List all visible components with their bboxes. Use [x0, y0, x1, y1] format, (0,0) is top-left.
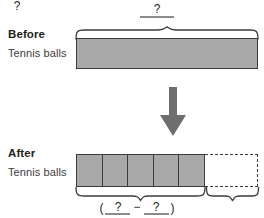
after-filled-expression: ( ? − ? ): [82, 202, 192, 218]
before-total-unknown: ?: [140, 4, 174, 18]
expression-close-paren: ): [171, 202, 175, 215]
before-total-blank-rule: [140, 16, 174, 18]
before-sublabel: Tennis balls: [8, 47, 67, 59]
down-arrow-icon: [159, 87, 187, 137]
after-filled-brace: [74, 187, 207, 202]
expression-second-blank: ?: [144, 202, 169, 215]
after-bar-segment: [128, 155, 154, 186]
before-label: Before: [8, 28, 45, 40]
after-empty-unknown: ?: [0, 0, 34, 12]
after-bar-empty: [205, 154, 258, 187]
after-sublabel: Tennis balls: [8, 166, 67, 178]
after-bar-segment: [77, 155, 103, 186]
after-bar-segment: [154, 155, 180, 186]
expression-first-blank: ?: [105, 202, 130, 215]
after-label: After: [8, 147, 35, 159]
after-bar-segment: [103, 155, 129, 186]
expression-open-paren: (: [99, 202, 103, 215]
after-empty-question-mark: ?: [0, 0, 34, 12]
tape-diagram: ? Before Tennis balls After Tennis balls…: [0, 0, 264, 218]
after-bar-filled: [76, 154, 205, 187]
before-bar: [76, 38, 258, 69]
expression-first-question-mark: ?: [105, 202, 130, 213]
before-total-question-mark: ?: [140, 4, 174, 15]
expression-second-question-mark: ?: [144, 202, 169, 213]
expression-operator: −: [132, 202, 141, 213]
after-empty-brace: [205, 187, 260, 202]
after-bar-segment: [179, 155, 204, 186]
